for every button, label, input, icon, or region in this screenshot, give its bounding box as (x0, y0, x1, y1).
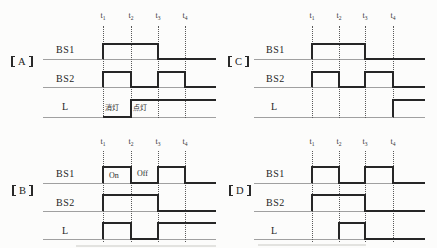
signal-label-L: L (271, 226, 278, 236)
time-subscript: 2 (131, 141, 134, 147)
time-subscript: 3 (365, 15, 368, 21)
waveform-BS1-panel-D (312, 167, 425, 183)
time-subscript: 2 (339, 15, 342, 21)
waveform-annotation: 消灯 (105, 104, 119, 113)
time-label-t4: t4 (391, 138, 396, 148)
time-label-t2: t2 (337, 138, 342, 148)
waveform-L-panel-D (339, 223, 425, 239)
panel-letter: D (236, 185, 244, 196)
lenticular-bracket-open (12, 185, 16, 196)
signal-label-BS2: BS2 (56, 198, 75, 208)
panel-label-A: A (11, 56, 33, 67)
time-label-t4: t4 (183, 12, 188, 22)
signal-label-L: L (62, 226, 69, 236)
lenticular-bracket-open (11, 56, 15, 67)
lenticular-bracket-close (29, 185, 33, 196)
time-label-t1: t1 (101, 138, 106, 148)
time-subscript: 3 (158, 141, 161, 147)
panel-label-C: C (228, 56, 249, 67)
time-label-t3: t3 (156, 138, 161, 148)
time-subscript: 3 (365, 141, 368, 147)
signal-label-BS2: BS2 (266, 198, 285, 208)
panel-letter: C (235, 56, 242, 67)
time-label-t1: t1 (310, 138, 315, 148)
time-label-t4: t4 (183, 138, 188, 148)
waveform-annotation: On (109, 171, 119, 180)
lenticular-bracket-open (228, 56, 232, 67)
waveform-BS2-panel-A (103, 72, 216, 87)
signal-label-L: L (62, 102, 69, 112)
time-subscript: 4 (185, 141, 188, 147)
time-subscript: 4 (393, 15, 396, 21)
waveform-BS2-panel-D (312, 195, 425, 211)
signal-label-BS2: BS2 (266, 74, 285, 84)
waveform-BS1-panel-A (103, 44, 216, 59)
time-label-t1: t1 (101, 12, 106, 22)
waveform-L-panel-C (393, 100, 425, 117)
time-subscript: 2 (131, 15, 134, 21)
time-subscript: 3 (158, 15, 161, 21)
time-label-t1: t1 (310, 12, 315, 22)
panel-letter: A (18, 56, 26, 67)
time-subscript: 1 (103, 15, 106, 21)
waveform-BS2-panel-C (312, 72, 425, 87)
signal-label-BS1: BS1 (56, 169, 75, 179)
timing-diagram-figure: At1t2t3t4BS1BS2L消灯点灯Ct1t2t3t4BS1BS2LBt1t… (0, 0, 437, 248)
lenticular-bracket-close (245, 56, 249, 67)
panel-label-D: D (229, 185, 251, 196)
waveform-BS2-panel-B (103, 195, 216, 211)
lenticular-bracket-close (247, 185, 251, 196)
time-subscript: 1 (312, 15, 315, 21)
time-label-t3: t3 (363, 12, 368, 22)
waveforms-layer (0, 0, 437, 248)
time-label-t2: t2 (337, 12, 342, 22)
lenticular-bracket-open (229, 185, 233, 196)
time-label-t3: t3 (156, 12, 161, 22)
signal-label-BS2: BS2 (56, 74, 75, 84)
time-label-t3: t3 (363, 138, 368, 148)
time-subscript: 4 (393, 141, 396, 147)
waveform-L-panel-A (103, 100, 216, 117)
time-subscript: 4 (185, 15, 188, 21)
time-subscript: 1 (312, 141, 315, 147)
lenticular-bracket-close (29, 56, 33, 67)
waveform-annotation: 点灯 (133, 104, 147, 113)
panel-letter: B (19, 185, 26, 196)
time-subscript: 1 (103, 141, 106, 147)
waveform-BS1-panel-C (312, 44, 425, 59)
signal-label-BS1: BS1 (266, 169, 285, 179)
time-label-t2: t2 (129, 12, 134, 22)
signal-label-BS1: BS1 (266, 45, 285, 55)
panel-label-B: B (12, 185, 33, 196)
time-subscript: 2 (339, 141, 342, 147)
signal-label-BS1: BS1 (56, 45, 75, 55)
waveform-L-panel-B (103, 223, 216, 239)
waveform-annotation: Off (137, 169, 148, 178)
time-label-t4: t4 (391, 12, 396, 22)
signal-label-L: L (271, 102, 278, 112)
waveform-BS1-panel-B (103, 167, 216, 183)
time-label-t2: t2 (129, 138, 134, 148)
